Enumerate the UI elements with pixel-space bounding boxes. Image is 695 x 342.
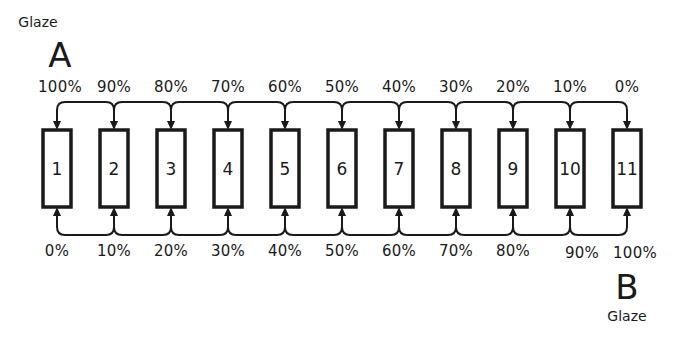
glaze-b-letter: B — [615, 270, 638, 304]
glaze-a-percent-label: 10% — [553, 78, 587, 96]
glaze-b-percent-label: 80% — [496, 242, 530, 260]
glaze-b-percent-label: 50% — [325, 242, 359, 260]
vessel-number: 9 — [508, 159, 519, 179]
glaze-b-percent-label: 70% — [439, 242, 473, 260]
vessel-number: 5 — [280, 159, 291, 179]
glaze-b-label: Glaze — [607, 308, 646, 324]
glaze-a-percent-label: 100% — [38, 78, 82, 96]
glaze-a-percent-label: 40% — [382, 78, 416, 96]
vessel-number: 6 — [337, 159, 348, 179]
vessel-number: 7 — [394, 159, 405, 179]
vessel-number: 8 — [451, 159, 462, 179]
glaze-b-percent-label: 60% — [382, 242, 416, 260]
vessel-number: 2 — [109, 159, 120, 179]
glaze-b-percent-label: 30% — [211, 242, 245, 260]
glaze-b-percent-label: 0% — [45, 242, 69, 260]
glaze-a-percent-label: 90% — [97, 78, 131, 96]
glaze-a-percent-label: 20% — [496, 78, 530, 96]
glaze-a-percent-label: 0% — [615, 78, 639, 96]
glaze-a-percent-label: 70% — [211, 78, 245, 96]
vessel-number: 11 — [616, 159, 638, 179]
flow-diagram — [0, 0, 695, 342]
glaze-b-percent-label: 90% — [565, 244, 599, 262]
glaze-a-label: Glaze — [18, 14, 57, 30]
glaze-a-percent-label: 80% — [154, 78, 188, 96]
vessel-number: 4 — [223, 159, 234, 179]
glaze-b-percent-label: 100% — [613, 244, 657, 262]
bottom-flow-line — [57, 227, 627, 235]
vessel-number: 1 — [52, 159, 63, 179]
glaze-a-percent-label: 50% — [325, 78, 359, 96]
glaze-a-letter: A — [48, 38, 71, 72]
glaze-a-percent-label: 60% — [268, 78, 302, 96]
glaze-b-percent-label: 20% — [154, 242, 188, 260]
glaze-b-percent-label: 10% — [97, 242, 131, 260]
glaze-a-percent-label: 30% — [439, 78, 473, 96]
vessel-number: 3 — [166, 159, 177, 179]
glaze-b-percent-label: 40% — [268, 242, 302, 260]
vessel-number: 10 — [559, 159, 581, 179]
